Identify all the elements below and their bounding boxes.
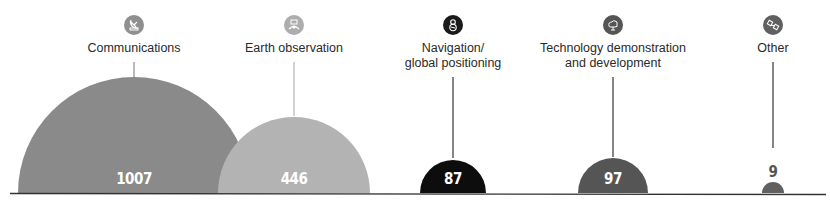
satellite-purpose-chart: Communications Earth observation Navigat… (0, 0, 830, 207)
value-label-communications: 1007 (116, 170, 152, 188)
category-label-other: Other (757, 41, 788, 56)
category-label-earth-observation: Earth observation (245, 41, 343, 56)
satellite-dish-icon (124, 15, 144, 35)
category-label-communications: Communications (87, 41, 180, 56)
semicircle-4 (762, 182, 784, 193)
other-satellite-icon (763, 15, 783, 35)
value-label-technology: 97 (604, 170, 622, 188)
earth-observation-icon (284, 15, 304, 35)
category-label-technology: Technology demonstration and development (540, 41, 686, 71)
value-label-earth-observation: 446 (281, 170, 308, 188)
baseline (10, 194, 826, 195)
value-label-other: 9 (769, 163, 778, 181)
value-label-navigation: 87 (444, 170, 462, 188)
category-label-navigation: Navigation/ global positioning (405, 41, 502, 71)
navigation-icon (443, 15, 463, 35)
technology-icon (603, 15, 623, 35)
